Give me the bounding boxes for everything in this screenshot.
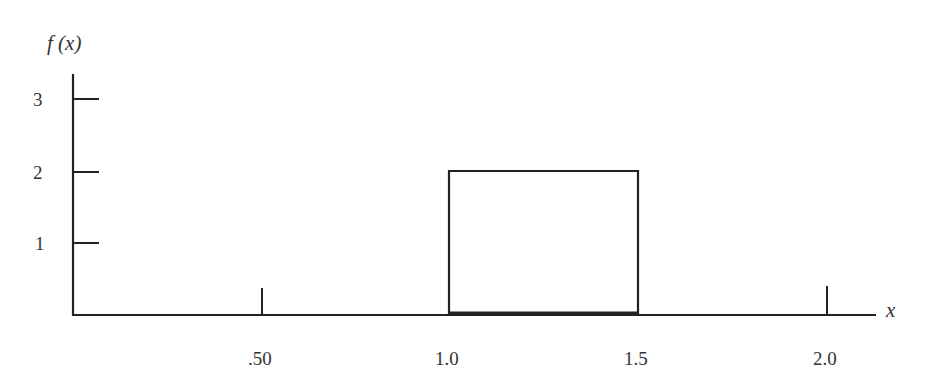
y-tick-label-3: 3 [33,90,43,109]
y-axis-label: f (x) [47,33,81,54]
y-tick-label-1: 1 [35,234,45,253]
x-tick-label-1.0: 1.0 [435,349,459,368]
x-tick-label-2.0: 2.0 [813,349,837,368]
x-axis-label: x [886,300,895,321]
chart-canvas [0,0,925,392]
y-tick-label-2: 2 [33,163,43,182]
x-tick-label-0.50: .50 [248,349,272,368]
x-tick-label-1.5: 1.5 [624,349,648,368]
density-rectangle [449,171,638,314]
